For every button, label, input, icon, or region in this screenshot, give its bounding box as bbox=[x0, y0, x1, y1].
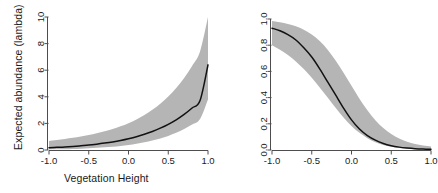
y-tick-label: 0.8 bbox=[258, 39, 269, 52]
confidence-band-left bbox=[49, 17, 208, 149]
y-tick-label: 8 bbox=[35, 41, 46, 46]
x-tick-label: -1.0 bbox=[264, 155, 280, 166]
x-tick-label: 1.0 bbox=[201, 155, 214, 166]
y-tick-label: 1.0 bbox=[258, 12, 269, 25]
x-axis-label-left: Vegetation Height bbox=[64, 172, 149, 184]
y-tick-label: 0 bbox=[35, 147, 46, 152]
y-tick-label: 10 bbox=[35, 12, 46, 23]
x-axis-right: -1.0-0.50.00.51.0 bbox=[264, 151, 438, 167]
x-axis-left: -1.0-0.50.00.51.0 bbox=[41, 151, 215, 167]
x-tick-label: 0.0 bbox=[122, 155, 135, 166]
x-tick-label: 1.0 bbox=[424, 155, 437, 166]
y-tick-label: 2 bbox=[35, 121, 46, 126]
y-tick-label: 0.4 bbox=[258, 91, 269, 104]
y-tick-label: 6 bbox=[35, 68, 46, 73]
y-axis-left: 0246810 bbox=[35, 12, 49, 153]
y-tick-label: 0.6 bbox=[258, 65, 269, 78]
panel-expected-abundance: 0246810 -1.0-0.50.00.51.0 Expected abund… bbox=[0, 0, 219, 193]
y-tick-label: 0.2 bbox=[258, 117, 269, 130]
x-tick-label: -0.5 bbox=[81, 155, 97, 166]
x-tick-label: -0.5 bbox=[304, 155, 320, 166]
plot-left: 0246810 -1.0-0.50.00.51.0 bbox=[0, 0, 219, 193]
x-tick-label: 0.5 bbox=[162, 155, 175, 166]
figure-container: 0246810 -1.0-0.50.00.51.0 Expected abund… bbox=[0, 0, 438, 193]
y-axis-right: 0.00.20.40.60.81.0 bbox=[258, 12, 272, 156]
panel-detection-probability: 0.00.20.40.60.81.0 -1.0-0.50.00.51.0 Det… bbox=[219, 0, 438, 193]
plot-right: 0.00.20.40.60.81.0 -1.0-0.50.00.51.0 bbox=[219, 0, 438, 193]
x-tick-label: -1.0 bbox=[41, 155, 57, 166]
y-tick-label: 4 bbox=[35, 94, 46, 99]
x-tick-label: 0.0 bbox=[345, 155, 358, 166]
y-axis-label-left: Expected abundance (lambda) bbox=[12, 4, 24, 150]
x-tick-label: 0.5 bbox=[385, 155, 398, 166]
